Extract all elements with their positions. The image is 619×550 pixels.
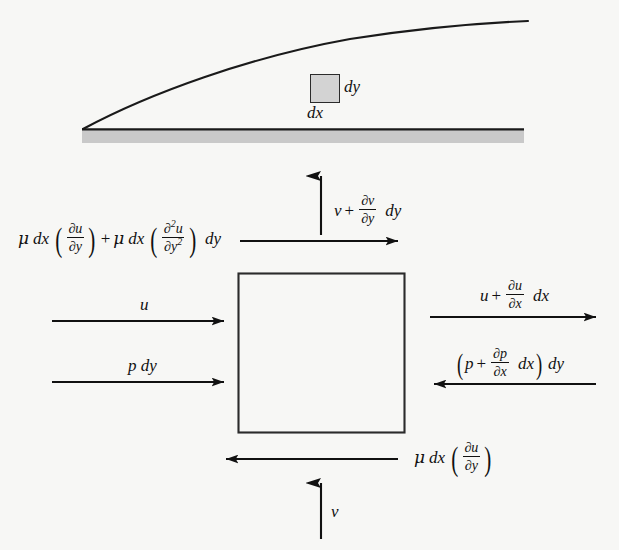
bottom-shear-fraction: ∂u ∂y	[462, 440, 480, 473]
u-3: u	[515, 278, 522, 293]
partial-9: ∂	[493, 346, 500, 361]
boundary-layer-figure: dy dx μ dx ( ∂u ∂y ) + μ dx ( ∂2u ∂y2 )	[0, 0, 619, 550]
right-paren-3: )	[536, 355, 542, 374]
p-num: p	[500, 346, 507, 361]
top-v-plus: +	[342, 202, 358, 219]
partial-4: ∂	[164, 239, 171, 254]
element-dx-label: dx	[307, 104, 323, 121]
top-shear-dx-1: dx	[33, 230, 49, 247]
right-paren-4: )	[485, 448, 492, 469]
right-paren-1: )	[89, 229, 96, 250]
bottom-shear-mu: μ	[414, 449, 425, 466]
right-pressure-label: ( p + ∂p ∂x dx ) dy	[455, 347, 564, 380]
y-3: y	[368, 211, 374, 226]
bottom-vertical-velocity-label: v	[331, 503, 339, 520]
right-p-dy: dy	[548, 355, 564, 372]
left-pressure-label: p dy	[128, 357, 157, 374]
u-2: u	[176, 221, 183, 236]
right-paren-2: )	[189, 229, 196, 250]
left-paren-3: (	[457, 355, 463, 374]
right-u-fraction: ∂u ∂x	[506, 278, 524, 311]
top-shear-mu-2: μ	[113, 230, 124, 247]
left-paren-2: (	[151, 229, 158, 250]
element-dy-label: dy	[344, 78, 360, 95]
right-p-fraction: ∂p ∂x	[491, 346, 509, 379]
top-shear-label: μ dx ( ∂u ∂y ) + μ dx ( ∂2u ∂y2 ) dy	[18, 222, 221, 255]
right-u: u	[480, 287, 489, 304]
top-shear-dx-2: dx	[128, 230, 144, 247]
u-1: u	[75, 221, 82, 236]
control-volume-square	[239, 274, 405, 433]
partial-7: ∂	[508, 278, 515, 293]
left-momentum-label: u	[140, 296, 149, 313]
top-v-fraction: ∂v ∂y	[359, 193, 376, 226]
differential-element-square	[310, 74, 340, 103]
top-shear-fraction-2: ∂2u ∂y2	[162, 221, 185, 254]
partial-2: ∂	[69, 239, 76, 254]
right-momentum-label: u + ∂u ∂x dx	[480, 279, 549, 312]
right-p: p	[465, 355, 474, 372]
y-1: y	[76, 239, 82, 254]
top-shear-dy: dy	[205, 230, 221, 247]
top-shear-plus: +	[98, 230, 114, 247]
x-1: x	[515, 296, 521, 311]
left-paren-1: (	[55, 229, 62, 250]
right-p-dx: dx	[518, 355, 534, 372]
partial-12: ∂	[465, 458, 472, 473]
top-v: v	[334, 202, 342, 219]
flat-plate	[82, 129, 524, 143]
bottom-shear-dx: dx	[429, 449, 445, 466]
boundary-layer-curve	[83, 21, 528, 129]
top-shear-mu: μ	[18, 230, 29, 247]
exponent-den: 2	[177, 236, 182, 247]
top-vertical-velocity-label: v + ∂v ∂y dy	[334, 194, 401, 227]
right-u-plus: +	[489, 287, 505, 304]
right-p-plus: +	[474, 355, 490, 372]
v-num: v	[368, 193, 374, 208]
top-v-dy: dy	[385, 202, 401, 219]
top-shear-fraction-1: ∂u ∂y	[66, 221, 84, 254]
y-4: y	[472, 458, 478, 473]
x-2: x	[500, 364, 506, 379]
partial-3: ∂	[164, 221, 171, 236]
u-4: u	[471, 440, 478, 455]
bottom-shear-label: μ dx ( ∂u ∂y )	[414, 441, 494, 474]
right-u-dx: dx	[533, 287, 549, 304]
left-paren-4: (	[451, 448, 458, 469]
